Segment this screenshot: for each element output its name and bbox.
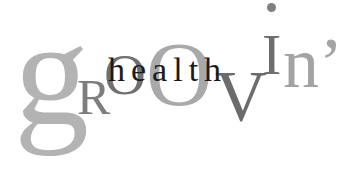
groovin-health-logo: g O n’ R O V I health bbox=[0, 0, 356, 195]
logo-word-health: health bbox=[108, 53, 227, 87]
logo-letter-i: I bbox=[262, 26, 281, 84]
logo-i-dot bbox=[267, 3, 276, 12]
logo-letter-n-apostrophe: n’ bbox=[283, 27, 343, 99]
